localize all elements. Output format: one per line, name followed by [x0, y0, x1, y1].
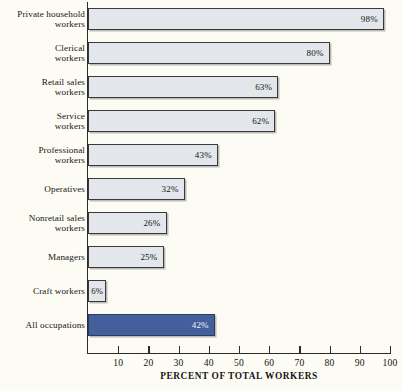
x-axis-tick-label: 80 — [315, 357, 345, 368]
bar-category-label-line: Professional — [1, 145, 85, 156]
bar-value-label: 42% — [192, 320, 214, 330]
bar-category-label: Operatives — [1, 184, 85, 195]
bar-row: Nonretail salesworkers26% — [0, 206, 403, 240]
bar-category-label-line: Craft workers — [1, 286, 85, 297]
bar-value-label: 63% — [255, 82, 277, 92]
y-axis-line — [87, 2, 88, 354]
bar-chart: Private householdworkers98%Clericalworke… — [0, 0, 403, 391]
bar-category-label: Craft workers — [1, 286, 85, 297]
bar-wrapper: 26% — [88, 212, 167, 234]
bar-wrapper: 63% — [88, 76, 278, 98]
bar-category-label: Serviceworkers — [1, 111, 85, 132]
bar-highlighted: 42% — [88, 314, 215, 336]
bar-category-label-line: workers — [1, 223, 85, 234]
bar: 80% — [88, 42, 330, 64]
bar-row: Managers25% — [0, 240, 403, 274]
bar-row: Serviceworkers62% — [0, 104, 403, 138]
bar-category-label: All occupations — [1, 320, 85, 331]
bar-category-label: Private householdworkers — [1, 9, 85, 30]
bar-category-label-line: workers — [1, 121, 85, 132]
bar-value-label: 98% — [361, 14, 383, 24]
x-axis-tick — [299, 346, 300, 354]
bar-row: All occupations42% — [0, 308, 403, 342]
bar-category-label-line: workers — [1, 155, 85, 166]
bar-category-label-line: workers — [1, 53, 85, 64]
x-axis-tick-label: 50 — [224, 357, 254, 368]
bar: 43% — [88, 144, 218, 166]
bar-value-label: 43% — [195, 150, 217, 160]
bar-category-label-line: Operatives — [1, 184, 85, 195]
bar-category-label-line: Managers — [1, 252, 85, 263]
bar-category-label-line: workers — [1, 87, 85, 98]
bar-row: Professionalworkers43% — [0, 138, 403, 172]
bar-category-label-line: Private household — [1, 9, 85, 20]
x-axis-tick — [148, 346, 149, 354]
x-axis-tick — [390, 346, 391, 354]
x-axis-tick — [209, 346, 210, 354]
bar-wrapper: 32% — [88, 178, 185, 200]
bar-category-label-line: All occupations — [1, 320, 85, 331]
bar-wrapper: 62% — [88, 110, 275, 132]
bar-wrapper: 80% — [88, 42, 330, 64]
bar: 62% — [88, 110, 275, 132]
x-axis-tick — [269, 346, 270, 354]
bar: 32% — [88, 178, 185, 200]
x-axis-tick-label: 90 — [345, 357, 375, 368]
x-axis-tick — [179, 346, 180, 354]
bar-value-label: 26% — [143, 218, 165, 228]
x-axis-tick-label: 100 — [375, 357, 403, 368]
x-axis-tick-label: 40 — [194, 357, 224, 368]
x-axis-tick — [239, 346, 240, 354]
bar: 25% — [88, 246, 164, 268]
bar-category-label: Professionalworkers — [1, 145, 85, 166]
x-axis-tick-label: 60 — [254, 357, 284, 368]
bar-row: Retail salesworkers63% — [0, 70, 403, 104]
x-axis-title: PERCENT OF TOTAL WORKERS — [88, 371, 390, 381]
x-axis-tick-label: 70 — [284, 357, 314, 368]
bar-category-label-line: Retail sales — [1, 77, 85, 88]
bar-value-label: 80% — [306, 48, 328, 58]
bar: 6% — [88, 280, 106, 302]
bar-wrapper: 43% — [88, 144, 218, 166]
bar-row: Clericalworkers80% — [0, 36, 403, 70]
bar-category-label-line: workers — [1, 19, 85, 30]
bar-row: Private householdworkers98% — [0, 2, 403, 36]
bar-category-label: Managers — [1, 252, 85, 263]
x-axis-tick-label: 30 — [164, 357, 194, 368]
bar-rows: Private householdworkers98%Clericalworke… — [0, 0, 403, 349]
bar-value-label: 6% — [91, 286, 105, 296]
bar-category-label-line: Nonretail sales — [1, 213, 85, 224]
bar-value-label: 25% — [140, 252, 162, 262]
bar-row: Operatives32% — [0, 172, 403, 206]
bar-row: Craft workers6% — [0, 274, 403, 308]
bar-value-label: 32% — [162, 184, 184, 194]
x-axis-tick — [360, 346, 361, 354]
x-axis-tick-label: 20 — [133, 357, 163, 368]
bar-wrapper: 98% — [88, 8, 384, 30]
bar-value-label: 62% — [252, 116, 274, 126]
bar-category-label-line: Clerical — [1, 43, 85, 54]
bar-category-label: Retail salesworkers — [1, 77, 85, 98]
bar-category-label-line: Service — [1, 111, 85, 122]
bar-category-label: Clericalworkers — [1, 43, 85, 64]
bar: 26% — [88, 212, 167, 234]
bar-category-label: Nonretail salesworkers — [1, 213, 85, 234]
x-axis-tick — [118, 346, 119, 354]
x-axis-tick-label: 10 — [103, 357, 133, 368]
bar-wrapper: 25% — [88, 246, 164, 268]
bar: 63% — [88, 76, 278, 98]
bar-wrapper: 42% — [88, 314, 215, 336]
x-axis-tick — [330, 346, 331, 354]
bar: 98% — [88, 8, 384, 30]
bar-wrapper: 6% — [88, 280, 106, 302]
